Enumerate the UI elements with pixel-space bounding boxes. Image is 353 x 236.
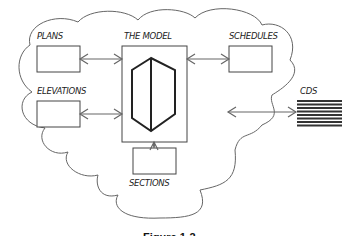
model-label: THE MODEL bbox=[124, 31, 172, 41]
cds-label: CDS bbox=[300, 86, 318, 96]
striped-block-icon bbox=[297, 100, 342, 127]
sections-box bbox=[133, 148, 176, 174]
schedules-box bbox=[229, 46, 272, 72]
schedules-label: SCHEDULES bbox=[229, 31, 279, 41]
plans-label: PLANS bbox=[37, 31, 64, 41]
cds-arrow bbox=[228, 107, 296, 117]
model-diagram: PLANS ELEVATIONS THE MODEL SCHEDULES SEC… bbox=[0, 0, 353, 236]
figure-caption: Figure 1-2 bbox=[143, 231, 196, 236]
elevations-label: ELEVATIONS bbox=[37, 86, 87, 96]
plans-box bbox=[37, 46, 80, 72]
sections-label: SECTIONS bbox=[129, 178, 170, 188]
elevations-box bbox=[37, 101, 80, 127]
